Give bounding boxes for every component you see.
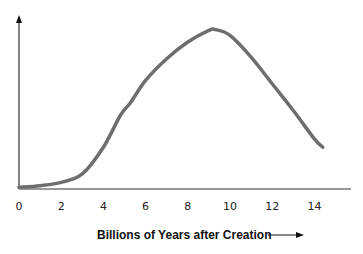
- x-axis-label: Billions of Years after Creation: [97, 228, 272, 242]
- x-tick-label: 8: [184, 200, 191, 213]
- x-tick-label: 2: [58, 200, 65, 213]
- x-tick-label: 14: [307, 200, 321, 213]
- x-tick-label: 10: [223, 200, 237, 213]
- x-axis-direction-arrow-icon: [268, 232, 304, 238]
- x-tick-label: 6: [142, 200, 149, 213]
- data-series-curve: [19, 29, 323, 187]
- x-tick-label: 0: [16, 200, 23, 213]
- y-axis-arrow-icon: [16, 15, 22, 23]
- x-tick-label: 12: [265, 200, 279, 213]
- y-axis: [16, 15, 22, 189]
- x-tick-labels: 02468101214: [16, 200, 322, 213]
- x-tick-label: 4: [100, 200, 107, 213]
- line-chart: 02468101214 Billions of Years after Crea…: [0, 0, 363, 254]
